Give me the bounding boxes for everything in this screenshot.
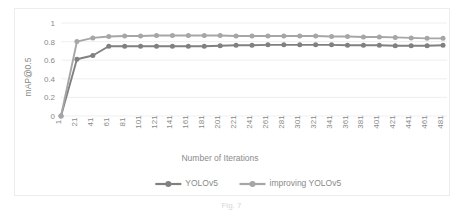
legend-marker-0: [165, 181, 171, 187]
data-point: [329, 34, 334, 39]
x-axis-tick-labels: 1214161811011211411611812012212412612813…: [54, 115, 445, 129]
data-point: [313, 34, 318, 39]
chart-legend: YOLOv5improving YOLOv5: [155, 178, 341, 188]
x-tick-label: 181: [197, 115, 206, 129]
x-tick-label: 381: [356, 115, 365, 129]
data-point: [345, 34, 350, 39]
x-tick-label: 261: [261, 115, 270, 129]
data-point: [441, 43, 446, 48]
data-point: [186, 44, 191, 49]
x-tick-label: 401: [372, 115, 381, 129]
x-tick-label: 101: [134, 115, 143, 129]
y-tick-label: 0.4: [44, 75, 56, 84]
data-point: [202, 44, 207, 49]
legend-label-1[interactable]: improving YOLOv5: [270, 178, 342, 188]
data-point: [441, 36, 446, 41]
data-point: [297, 34, 302, 39]
chart-frame: 00.20.40.60.81 1214161811011211411611812…: [14, 8, 450, 196]
data-point: [265, 34, 270, 39]
series-line-0: [61, 45, 443, 116]
x-tick-label: 341: [325, 115, 334, 129]
data-point: [138, 34, 143, 39]
data-point: [90, 53, 95, 58]
x-tick-label: 81: [118, 117, 127, 126]
data-point: [361, 43, 366, 48]
data-point: [106, 44, 111, 49]
x-tick-label: 321: [309, 115, 318, 129]
y-tick-label: 0.8: [44, 38, 56, 47]
x-tick-label: 161: [181, 115, 190, 129]
data-point: [377, 34, 382, 39]
x-tick-label: 201: [213, 115, 222, 129]
y-tick-label: 0.2: [44, 93, 56, 102]
data-point: [138, 44, 143, 49]
data-point: [106, 34, 111, 39]
data-point: [281, 34, 286, 39]
x-tick-label: 121: [150, 115, 159, 129]
y-axis-title: mAP@0.5: [23, 57, 33, 96]
x-tick-label: 21: [70, 117, 79, 126]
x-tick-label: 141: [165, 115, 174, 129]
line-chart: 00.20.40.60.81 1214161811011211411611812…: [15, 9, 451, 197]
x-tick-label: 481: [436, 115, 445, 129]
y-tick-label: 0: [51, 112, 56, 121]
data-point: [234, 34, 239, 39]
data-point: [250, 43, 255, 48]
x-axis-title: Number of Iterations: [181, 153, 258, 163]
data-point: [425, 36, 430, 41]
data-point: [377, 43, 382, 48]
figure-caption: Fig. 7: [0, 201, 463, 210]
y-axis-tick-labels: 00.20.40.60.81: [44, 19, 56, 121]
x-tick-label: 281: [277, 115, 286, 129]
data-point: [281, 42, 286, 47]
data-point: [170, 33, 175, 38]
data-point: [297, 42, 302, 47]
data-point: [393, 35, 398, 40]
data-point: [234, 43, 239, 48]
data-point: [329, 42, 334, 47]
data-point: [409, 43, 414, 48]
data-point: [74, 57, 79, 62]
data-point: [425, 43, 430, 48]
series-group: [59, 33, 446, 118]
x-tick-label: 1: [54, 119, 63, 124]
data-point: [154, 33, 159, 38]
data-point: [154, 44, 159, 49]
data-point: [122, 34, 127, 39]
x-tick-label: 441: [404, 115, 413, 129]
data-point: [186, 33, 191, 38]
data-point: [170, 44, 175, 49]
data-point: [345, 43, 350, 48]
data-point: [218, 43, 223, 48]
legend-marker-1: [250, 181, 256, 187]
x-tick-label: 361: [341, 115, 350, 129]
x-tick-label: 221: [229, 115, 238, 129]
data-point: [265, 42, 270, 47]
x-tick-label: 461: [420, 115, 429, 129]
data-point: [393, 43, 398, 48]
y-tick-label: 1: [51, 19, 56, 28]
figure-container: 00.20.40.60.81 1214161811011211411611812…: [0, 0, 463, 214]
data-point: [74, 39, 79, 44]
data-point: [59, 114, 64, 119]
data-point: [313, 42, 318, 47]
y-tick-label: 0.6: [44, 56, 56, 65]
data-point: [361, 34, 366, 39]
legend-label-0[interactable]: YOLOv5: [185, 178, 218, 188]
x-tick-label: 41: [86, 117, 95, 126]
data-point: [250, 34, 255, 39]
data-point: [90, 35, 95, 40]
data-point: [409, 35, 414, 40]
x-tick-label: 421: [388, 115, 397, 129]
x-tick-label: 241: [245, 115, 254, 129]
data-point: [122, 44, 127, 49]
data-point: [202, 33, 207, 38]
x-tick-label: 61: [102, 117, 111, 126]
data-point: [218, 33, 223, 38]
x-tick-label: 301: [293, 115, 302, 129]
